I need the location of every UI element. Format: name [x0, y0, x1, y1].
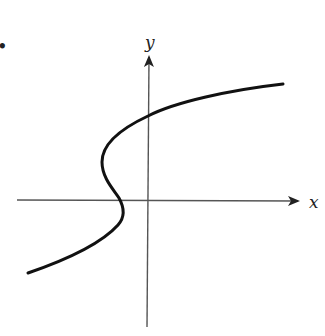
curve: [28, 84, 283, 273]
x-axis: [17, 200, 298, 201]
y-axis: [147, 57, 149, 327]
graph-figure: • x y: [0, 0, 325, 336]
x-axis-label: x: [309, 192, 319, 212]
bullet-marker: •: [0, 36, 8, 57]
y-axis-label: y: [144, 32, 155, 52]
